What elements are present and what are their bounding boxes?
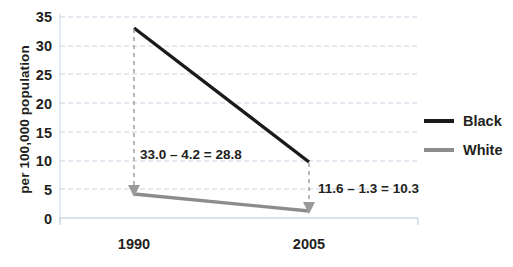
legend-swatch-icon	[424, 119, 454, 123]
series-line-black	[134, 28, 309, 162]
legend-label: Black	[463, 113, 502, 129]
gap-arrow-1990	[128, 29, 140, 197]
line-chart: per 100,000 population 35 30 25 20 15 10…	[0, 0, 513, 267]
legend-swatch-icon	[424, 148, 454, 152]
annotation-gap-1990: 33.0 – 4.2 = 28.8	[140, 147, 242, 162]
series-line-white	[134, 194, 309, 211]
legend-label: White	[463, 142, 502, 158]
x-axis-tick-label: 2005	[264, 236, 354, 252]
x-axis-tick-label: 1990	[89, 236, 179, 252]
legend: Black White	[424, 106, 502, 164]
legend-item-white: White	[424, 135, 502, 164]
annotation-gap-2005: 11.6 – 1.3 = 10.3	[318, 181, 419, 196]
legend-item-black: Black	[424, 106, 502, 135]
